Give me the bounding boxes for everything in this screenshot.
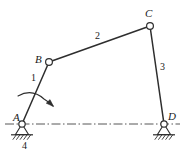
ground-hatching-d xyxy=(155,135,173,139)
link-label-2: 2 xyxy=(95,31,100,41)
link-3-rocker xyxy=(150,26,164,124)
link-label-4: 4 xyxy=(22,141,27,151)
mechanism-drawing xyxy=(0,0,183,156)
joint-label-a: A xyxy=(13,112,20,123)
joint-d-pin xyxy=(161,121,167,127)
support-a xyxy=(11,121,33,140)
joint-label-b: B xyxy=(35,54,42,65)
crank-rotation-arrow xyxy=(18,93,54,107)
link-label-3: 3 xyxy=(160,62,165,72)
joint-label-c: C xyxy=(145,8,152,19)
joint-c-pin xyxy=(147,23,154,30)
joint-label-d: D xyxy=(168,111,176,122)
link-label-1: 1 xyxy=(31,73,36,83)
ground-hatching-a xyxy=(13,135,31,139)
joint-b-pin xyxy=(46,59,53,66)
mechanism-figure: A B C D 1 2 3 4 xyxy=(0,0,183,156)
